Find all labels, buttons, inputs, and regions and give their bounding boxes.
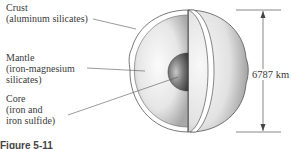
crust-label: Crust (aluminum silicates) [6,2,88,24]
crust-name: Crust [6,2,88,13]
mantle-label: Mantle (iron-magnesium silicates) [6,52,75,85]
crust-composition: (aluminum silicates) [6,13,88,24]
mantle-composition-2: silicates) [6,74,75,85]
scale-arrow-up-icon [261,11,266,18]
figure-caption: Figure 5-11 [0,140,53,149]
diameter-label: 6787 km [251,69,290,80]
core-name: Core [6,93,55,104]
outer-surface [188,10,248,132]
mantle-composition-1: (iron-magnesium [6,63,75,74]
mantle-name: Mantle [6,52,75,63]
crust-leader-line [93,19,136,29]
scale-arrow-down-icon [261,124,266,131]
core-composition-1: (iron and [6,104,55,115]
core-composition-2: iron sulfide) [6,115,55,126]
core-label: Core (iron and iron sulfide) [6,93,55,126]
